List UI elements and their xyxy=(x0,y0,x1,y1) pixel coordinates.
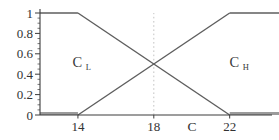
y-tick-label: 0 xyxy=(27,108,34,123)
x-axis-title: C xyxy=(187,119,196,134)
region-label-CH-sub: H xyxy=(243,62,249,72)
y-tick-label: 0.6 xyxy=(17,46,34,61)
x-tick-label: 18 xyxy=(147,119,160,134)
y-tick-label: 0.2 xyxy=(17,87,33,102)
membership-function-figure: 00.20.40.60.81141822 C C L C H xyxy=(0,0,279,140)
region-label-CL-sub: L xyxy=(86,62,91,72)
region-label-CH: C H xyxy=(229,54,248,72)
y-tick-label: 1 xyxy=(27,6,34,21)
region-label-CH-main: C xyxy=(229,54,239,70)
region-label-CL-main: C xyxy=(72,54,82,70)
chart-canvas: 00.20.40.60.81141822 C C L C H xyxy=(0,0,279,140)
x-tick-label: 14 xyxy=(71,119,85,134)
y-tick-label: 0.8 xyxy=(17,26,33,41)
y-tick-label: 0.4 xyxy=(17,67,34,82)
x-tick-label: 22 xyxy=(223,119,236,134)
region-label-CL: C L xyxy=(72,54,91,72)
